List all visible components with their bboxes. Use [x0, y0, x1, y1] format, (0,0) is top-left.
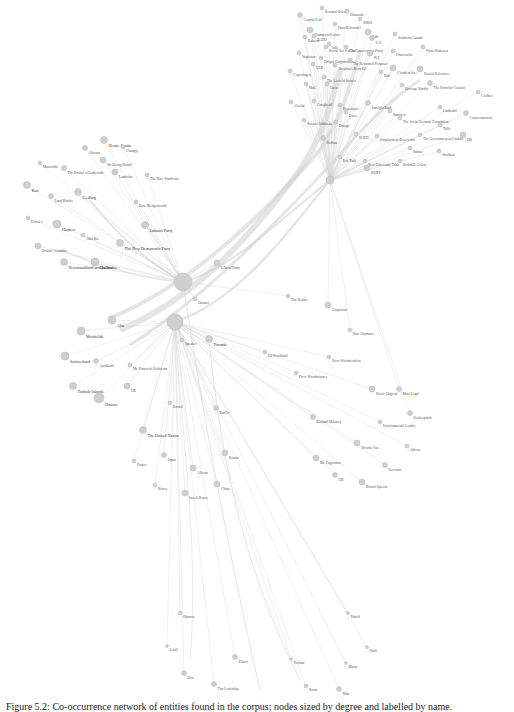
- graph-node: [476, 90, 480, 94]
- graph-node: [298, 13, 303, 18]
- node-label: Albeton: [89, 151, 101, 155]
- graph-node: [390, 65, 396, 71]
- graph-node: [367, 50, 373, 56]
- node-label: Mr. Fagnotton: [320, 461, 341, 465]
- node-label: Landolan: [119, 175, 133, 179]
- graph-node: [383, 463, 388, 468]
- node-label: The Portfolio Council: [434, 86, 466, 90]
- graph-node: [321, 136, 326, 141]
- graph-node: [178, 611, 182, 615]
- graph-node: [327, 355, 331, 359]
- graph-node: [81, 233, 85, 237]
- node-label: Harpers: [62, 227, 76, 232]
- graph-node: [132, 459, 136, 463]
- edge: [175, 322, 216, 408]
- graph-node: [438, 123, 442, 127]
- node-label: BarTer: [220, 411, 231, 415]
- node-label: Bristol Queens: [366, 485, 388, 489]
- edge: [96, 322, 175, 361]
- node-label: Auckland: [100, 364, 114, 368]
- graph-node: [162, 453, 167, 458]
- graph-node: [61, 259, 68, 266]
- graph-node: [333, 63, 337, 67]
- node-label: Orvenge Bardin: [405, 87, 428, 91]
- graph-node: [408, 146, 412, 150]
- node-label: Stapleton: [302, 55, 316, 59]
- node-label: Henne Scotta: [109, 143, 132, 148]
- graph-node: [288, 69, 292, 73]
- graph-node: [379, 70, 383, 74]
- graph-node: [101, 137, 108, 144]
- edge: [175, 322, 362, 482]
- graph-node: [38, 161, 42, 165]
- graph-node: [344, 45, 348, 49]
- node-label: Obrtson: [183, 615, 195, 619]
- graph-node: [398, 159, 402, 163]
- node-label: Myrae: [349, 665, 359, 669]
- node-label: UK: [131, 389, 137, 393]
- graph-node: [182, 671, 187, 676]
- graph-node: [338, 155, 342, 159]
- graph-node: [26, 216, 30, 220]
- graph-node: [233, 655, 238, 660]
- graph-node: [206, 336, 213, 343]
- node-label: N.E.: [374, 56, 381, 60]
- node-label: Yochad: [294, 661, 305, 665]
- node-label: Richmill Coleur: [403, 163, 427, 167]
- edge: [175, 322, 184, 673]
- node-label: Environmental Lender: [383, 424, 416, 428]
- node-label: Craighead: [317, 103, 332, 107]
- node-label: Ottawa: [105, 402, 117, 407]
- node-label: Lindaahd: [443, 109, 457, 113]
- node-label: Brom: [309, 688, 317, 692]
- node-label: Bristol: [173, 405, 183, 409]
- node-label: Albu Ba: [86, 237, 98, 241]
- nodes: Bernard OrlenzDiamondComtnt FeldSNOSOmn …: [24, 6, 494, 696]
- graph-node: [418, 133, 422, 137]
- graph-node: [190, 465, 196, 471]
- node-label: Rdd: [384, 74, 390, 78]
- node-label: Gedlarg: [83, 195, 97, 200]
- graph-node: [307, 27, 313, 33]
- graph-node: [345, 662, 348, 665]
- graph-node: [347, 612, 350, 615]
- edge: [73, 322, 175, 386]
- graph-node: [212, 682, 217, 687]
- node-label: The Social Security Foundation: [403, 120, 449, 124]
- graph-node: [313, 455, 319, 461]
- graph-node: [302, 118, 306, 122]
- node-label: Hald: [370, 649, 377, 653]
- node-label: The Liefield Service: [327, 79, 357, 83]
- graph-node: [344, 110, 348, 114]
- graph-node: [421, 45, 425, 49]
- graph-node: [263, 350, 267, 354]
- graph-node: [145, 173, 149, 177]
- graph-node: [364, 165, 370, 171]
- graph-node: [366, 101, 371, 106]
- graph-node: [182, 490, 188, 496]
- node-label: Kan: [32, 188, 40, 193]
- graph-node: [286, 294, 290, 298]
- graph-node: [214, 406, 219, 411]
- graph-node: [320, 6, 324, 10]
- edge: [175, 322, 367, 647]
- node-label: Mall: [309, 86, 316, 90]
- edge: [328, 180, 330, 305]
- graph-node: [83, 146, 88, 151]
- node-label: Esx Turk: [343, 159, 356, 163]
- node-label: Tabolf: [351, 615, 361, 619]
- node-label: Bedlan: [327, 141, 337, 145]
- graph-node: [400, 83, 404, 87]
- graph-node: [348, 58, 352, 62]
- node-label: Israeli Korea: [189, 496, 208, 500]
- node-label: Tim Lockridge: [218, 687, 240, 691]
- graph-node: [121, 145, 125, 149]
- node-label: Southern Canada: [398, 36, 423, 40]
- node-label: Ontario: [198, 301, 209, 305]
- node-label: Switzerland: [70, 359, 91, 364]
- graph-node: [388, 109, 392, 113]
- graph-node: [49, 194, 54, 199]
- node-label: Shephaset Berryhill: [338, 67, 366, 71]
- node-label: Erne Bledgerworth: [139, 204, 167, 208]
- graph-node: [53, 220, 61, 228]
